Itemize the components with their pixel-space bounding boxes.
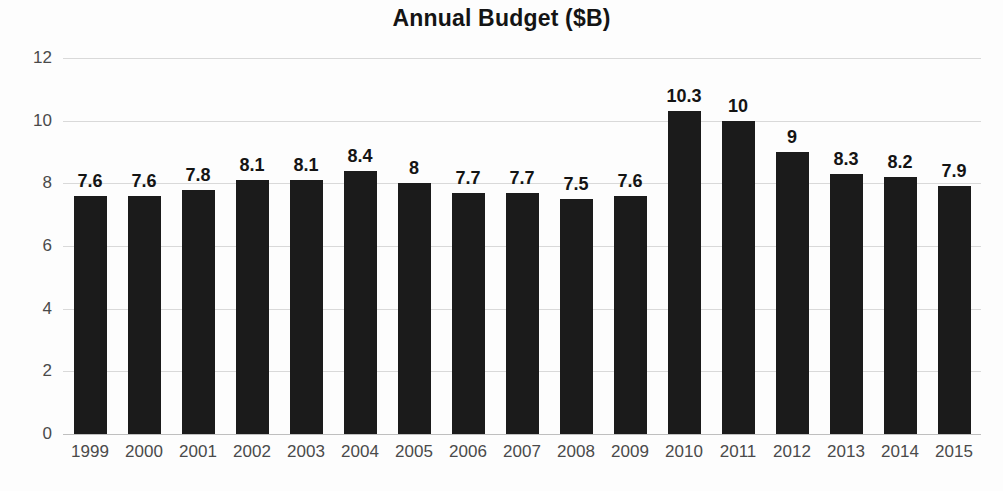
bar-value-label: 8.4: [332, 146, 389, 166]
x-tick-label: 2001: [171, 441, 225, 463]
bar-group[interactable]: 7.6: [128, 58, 161, 434]
bar-value-label: 7.9: [926, 161, 983, 181]
x-tick-label: 2000: [117, 441, 171, 463]
y-axis: 024681012: [0, 58, 52, 434]
x-tick-label: 2006: [441, 441, 495, 463]
y-tick-label: 10: [6, 112, 52, 129]
bar-value-label: 7.6: [116, 171, 173, 191]
bar-value-label: 7.7: [494, 168, 551, 188]
bar[interactable]: [722, 121, 755, 434]
y-tick-label: 4: [6, 300, 52, 317]
x-tick-label: 2005: [387, 441, 441, 463]
bar[interactable]: [398, 183, 431, 434]
x-tick-label: 2010: [657, 441, 711, 463]
bar-value-label: 10.3: [656, 86, 713, 106]
chart-title: Annual Budget ($B): [0, 4, 1003, 32]
bar[interactable]: [668, 111, 701, 434]
bar-value-label: 8.1: [278, 155, 335, 175]
bar-value-label: 8: [386, 158, 443, 178]
x-tick-label: 1999: [63, 441, 117, 463]
bar[interactable]: [182, 190, 215, 434]
bar[interactable]: [506, 193, 539, 434]
bar[interactable]: [344, 171, 377, 434]
bars-layer: 7.67.67.88.18.18.487.77.77.57.610.31098.…: [63, 58, 981, 434]
x-tick-label: 2008: [549, 441, 603, 463]
bar-group[interactable]: 8: [398, 58, 431, 434]
bar-group[interactable]: 10.3: [668, 58, 701, 434]
bar-group[interactable]: 7.9: [938, 58, 971, 434]
bar[interactable]: [560, 199, 593, 434]
bar[interactable]: [128, 196, 161, 434]
bar-group[interactable]: 8.3: [830, 58, 863, 434]
bar[interactable]: [614, 196, 647, 434]
x-tick-label: 2012: [765, 441, 819, 463]
y-tick-label: 0: [6, 425, 52, 442]
y-tick-label: 2: [6, 362, 52, 379]
bar-group[interactable]: 7.7: [506, 58, 539, 434]
x-tick-label: 2009: [603, 441, 657, 463]
y-tick-label: 6: [6, 237, 52, 254]
bar[interactable]: [776, 152, 809, 434]
x-tick-label: 2007: [495, 441, 549, 463]
bar-group[interactable]: 8.4: [344, 58, 377, 434]
y-tick-label: 8: [6, 174, 52, 191]
bar[interactable]: [452, 193, 485, 434]
x-tick-label: 2004: [333, 441, 387, 463]
x-tick-label: 2011: [711, 441, 765, 463]
bar-value-label: 10: [710, 96, 767, 116]
bar-value-label: 7.6: [602, 171, 659, 191]
bar[interactable]: [236, 180, 269, 434]
bar[interactable]: [74, 196, 107, 434]
bar-group[interactable]: 10: [722, 58, 755, 434]
bar-value-label: 8.1: [224, 155, 281, 175]
bar[interactable]: [938, 186, 971, 434]
bar-value-label: 9: [764, 127, 821, 147]
bar-value-label: 7.5: [548, 174, 605, 194]
bar[interactable]: [884, 177, 917, 434]
bar-group[interactable]: 9: [776, 58, 809, 434]
bar-group[interactable]: 7.8: [182, 58, 215, 434]
bar-group[interactable]: 7.7: [452, 58, 485, 434]
x-tick-label: 2003: [279, 441, 333, 463]
y-tick-label: 12: [6, 49, 52, 66]
bar-value-label: 7.8: [170, 165, 227, 185]
bar-chart: Annual Budget ($B) 024681012 7.67.67.88.…: [0, 0, 1003, 491]
bar-value-label: 7.6: [62, 171, 119, 191]
bar-group[interactable]: 8.1: [290, 58, 323, 434]
bar[interactable]: [290, 180, 323, 434]
x-tick-label: 2002: [225, 441, 279, 463]
bar-group[interactable]: 8.1: [236, 58, 269, 434]
bar-value-label: 7.7: [440, 168, 497, 188]
x-axis: 1999200020012002200320042005200620072008…: [63, 441, 981, 467]
bar[interactable]: [830, 174, 863, 434]
x-tick-label: 2015: [927, 441, 981, 463]
bar-group[interactable]: 8.2: [884, 58, 917, 434]
x-tick-label: 2013: [819, 441, 873, 463]
bar-group[interactable]: 7.6: [614, 58, 647, 434]
bar-value-label: 8.2: [872, 152, 929, 172]
x-tick-label: 2014: [873, 441, 927, 463]
bar-group[interactable]: 7.5: [560, 58, 593, 434]
bar-value-label: 8.3: [818, 149, 875, 169]
gridline: [63, 434, 981, 435]
bar-group[interactable]: 7.6: [74, 58, 107, 434]
